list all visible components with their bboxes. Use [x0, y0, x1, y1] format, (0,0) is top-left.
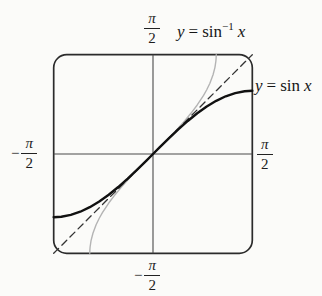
sin-curve-label: y=sinx [255, 76, 312, 96]
y-axis-tick-bottom: − π 2 [134, 257, 160, 293]
arcsin-curve-label: y=sin−1x [177, 22, 245, 42]
superscript-minus-one: −1 [222, 20, 234, 32]
pi-over-two-fraction: π 2 [21, 135, 37, 171]
tick-sign: − [11, 146, 19, 161]
tick-sign: − [134, 268, 142, 283]
pi-over-two-fraction: π 2 [144, 257, 160, 293]
inverse-sine-figure: π 2 − π 2 π 2 − π 2 y=sin−1x y=sinx [0, 0, 322, 296]
y-axis-tick-top: π 2 [134, 10, 168, 46]
pi-over-two-fraction: π 2 [257, 136, 273, 172]
pi-over-two-fraction: π 2 [144, 10, 160, 46]
x-axis-tick-left: − π 2 [11, 135, 37, 171]
x-axis-tick-right: π 2 [255, 136, 273, 172]
